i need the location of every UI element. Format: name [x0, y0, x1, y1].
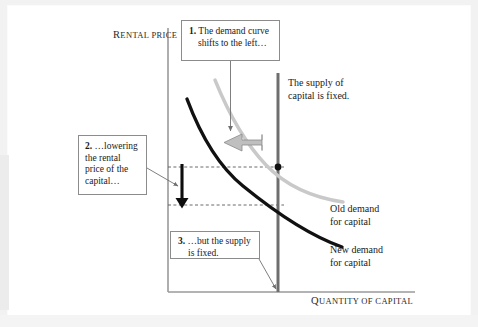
callout-1-text-1: The demand curve	[196, 26, 269, 36]
new-demand-curve	[187, 99, 342, 247]
callout-3-text-1: …but the supply	[185, 236, 251, 246]
figure-root: RENTAL PRICE QUANTITY OF CAPITAL 1. The …	[0, 0, 478, 327]
callout-2-line-3: price of the	[85, 164, 142, 176]
callout-2-line-1: 2. …lowering	[85, 141, 142, 153]
callout-demand-shift: 1. The demand curve shifts to the left…	[181, 20, 280, 61]
x-axis-title-rest: UANTITY OF CAPITAL	[319, 296, 413, 306]
callout-supply-fixed: 3. …but the supply is fixed.	[170, 231, 260, 259]
callout-2-leader-line	[147, 168, 178, 186]
old-demand-curve-label: Old demand for capital	[330, 203, 379, 229]
callout-2-line-2: the rental	[85, 153, 142, 165]
callout-2-line-4: capital…	[85, 176, 142, 188]
new-demand-curve-label: New demand for capital	[330, 244, 383, 270]
callout-3-line-1: 3. …but the supply	[178, 236, 254, 248]
callout-1-line-1: 1. The demand curve	[189, 26, 273, 38]
old-equilibrium-dot	[275, 164, 282, 171]
callout-1-line-2: shifts to the left…	[189, 38, 273, 50]
x-axis-title-initial: Q	[311, 295, 319, 306]
supply-fixed-note: The supply of capital is fixed.	[288, 77, 349, 103]
callout-price-lowering: 2. …lowering the rental price of the cap…	[78, 135, 147, 195]
callout-2-text-1: …lowering	[92, 141, 138, 151]
callout-3-leader-line	[259, 259, 276, 289]
callout-3-line-2: is fixed.	[178, 248, 254, 260]
x-axis-title: QUANTITY OF CAPITAL	[311, 295, 413, 306]
price-drop-arrow	[176, 164, 189, 209]
y-axis-title-rest: ENTAL PRICE	[120, 30, 177, 40]
y-axis-title: RENTAL PRICE	[113, 29, 177, 40]
